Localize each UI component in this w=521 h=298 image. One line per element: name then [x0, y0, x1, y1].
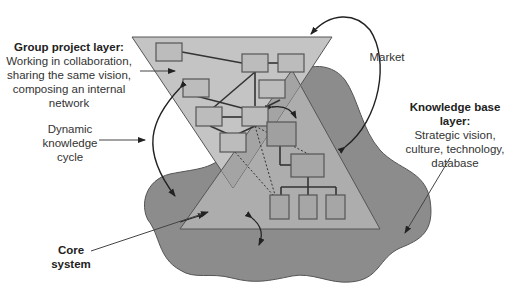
dynamic-cycle-line: Dynamic — [48, 123, 93, 135]
knowledge-base-line: database — [431, 157, 478, 169]
dynamic-cycle-label: Dynamic knowledge cycle — [42, 122, 98, 164]
knowledge-base-label: Knowledge base layer: Strategic vision, … — [393, 100, 517, 170]
core-system-label: Core system — [50, 243, 92, 271]
dynamic-cycle-line: knowledge — [43, 137, 98, 149]
group-project-label: Group project layer: Working in collabor… — [6, 40, 132, 110]
group-project-line: sharing the same vision, — [7, 69, 131, 81]
dynamic-cycle-line: cycle — [57, 151, 83, 163]
market-label: Market — [362, 50, 412, 64]
knowledge-base-title: Knowledge base layer: — [393, 100, 517, 128]
group-project-line: composing an internal — [13, 83, 126, 95]
knowledge-base-line: culture, technology, — [406, 143, 505, 155]
core-system-line: Core — [58, 244, 84, 256]
group-project-title: Group project layer: — [6, 40, 132, 54]
core-system-line: system — [51, 258, 91, 270]
knowledge-base-line: Strategic vision, — [414, 129, 495, 141]
group-project-line: network — [49, 97, 89, 109]
market-text: Market — [369, 51, 404, 63]
group-project-line: Working in collaboration, — [6, 55, 132, 67]
